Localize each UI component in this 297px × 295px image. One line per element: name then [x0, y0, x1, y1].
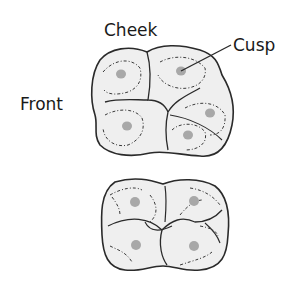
cusp-dot — [131, 240, 141, 250]
cusp-dot — [189, 196, 199, 206]
lower-tooth-outline — [102, 179, 229, 270]
cusp-label: Cusp — [233, 37, 275, 54]
lower-tooth — [102, 179, 229, 270]
upper-tooth — [92, 46, 234, 156]
cusp-dot — [130, 197, 140, 207]
cusp-dot — [183, 131, 193, 140]
cheek-label: Cheek — [104, 22, 157, 39]
cusp-dot — [116, 70, 126, 79]
cusp-dot — [189, 241, 199, 251]
front-label: Front — [20, 96, 63, 113]
cusp-dot — [205, 109, 215, 118]
cusp-dot — [122, 122, 132, 131]
